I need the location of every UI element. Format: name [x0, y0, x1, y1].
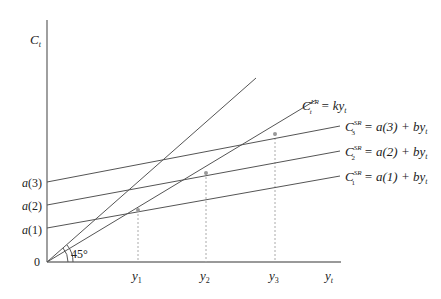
y2-tick-label: y2	[198, 268, 210, 285]
y3-tick-label: y3	[267, 268, 279, 285]
consumption-function-diagram: Ct yt 0 45° a(3) a(2) a(1) y1 y2 y3 CLRt…	[0, 0, 441, 299]
y-axis-label: Ct	[30, 32, 42, 49]
short-run-line-1	[47, 176, 340, 228]
short-run-3-equation-label: CSR3= a(3) + byt	[345, 119, 428, 137]
45-degree-line	[47, 78, 256, 262]
intersection-point-1	[136, 208, 140, 212]
short-run-line-2	[47, 151, 340, 205]
x-axis-label: yt	[323, 268, 334, 285]
y1-tick-label: y1	[130, 268, 142, 285]
short-run-2-equation-label: CSR2= a(2) + byt	[345, 144, 428, 162]
long-run-consumption-line	[47, 100, 316, 262]
a2-label: a(2)	[22, 199, 42, 213]
short-run-1-equation-label: CSR1= a(1) + byt	[345, 169, 428, 187]
angle-label: 45°	[71, 247, 88, 261]
a1-label: a(1)	[22, 223, 42, 237]
long-run-equation-label: CLRt= kyt	[302, 98, 347, 116]
intersection-point-2	[204, 171, 208, 175]
origin-label: 0	[34, 255, 40, 269]
a3-label: a(3)	[22, 176, 42, 190]
intersection-point-3	[273, 132, 277, 136]
